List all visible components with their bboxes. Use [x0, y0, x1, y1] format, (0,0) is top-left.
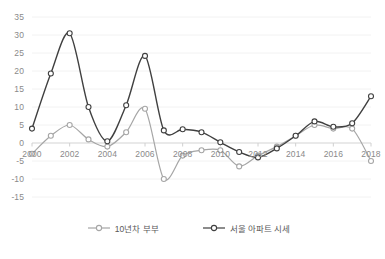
- data-point-marker: [293, 133, 298, 138]
- data-point-marker: [199, 130, 204, 135]
- data-point-marker: [143, 106, 148, 111]
- x-axis-tick-label: 2010: [205, 149, 235, 159]
- data-point-marker: [369, 159, 374, 164]
- data-point-marker: [274, 146, 279, 151]
- data-point-marker: [67, 31, 72, 36]
- data-point-marker: [161, 177, 166, 182]
- y-axis-tick-label: 20: [2, 66, 24, 76]
- y-axis-tick-label: 5: [2, 120, 24, 130]
- legend-item[interactable]: 서울 아파트 시세: [203, 222, 291, 234]
- legend-item[interactable]: 10년차 부부: [88, 222, 159, 234]
- x-axis-tick-label: 2002: [55, 149, 85, 159]
- data-point-marker: [369, 94, 374, 99]
- series-line: [32, 33, 371, 158]
- legend-marker-icon: [203, 223, 225, 233]
- x-axis-tick-label: 2006: [130, 149, 160, 159]
- data-point-marker: [237, 150, 242, 155]
- y-axis-tick-label: -15: [2, 192, 24, 202]
- data-point-marker: [237, 164, 242, 169]
- data-point-marker: [331, 124, 336, 129]
- legend-label: 서울 아파트 시세: [230, 222, 291, 234]
- data-point-marker: [67, 123, 72, 128]
- data-point-marker: [180, 127, 185, 132]
- x-axis-tick-label: 2012: [243, 149, 273, 159]
- data-point-marker: [86, 137, 91, 142]
- data-point-marker: [218, 140, 223, 145]
- series-line: [32, 108, 371, 181]
- legend-label: 10년차 부부: [115, 222, 159, 234]
- y-axis-tick-label: 30: [2, 30, 24, 40]
- gridlines: [32, 17, 371, 197]
- data-point-marker: [48, 71, 53, 76]
- data-point-marker: [105, 139, 110, 144]
- x-axis-tick-label: 2014: [281, 149, 311, 159]
- data-point-marker: [30, 126, 35, 131]
- x-axis-tick-label: 2008: [168, 149, 198, 159]
- x-axis-tick-label: 2000: [17, 149, 47, 159]
- x-axis-tick-label: 2016: [318, 149, 348, 159]
- data-point-marker: [124, 103, 129, 108]
- y-axis-tick-label: 0: [2, 138, 24, 148]
- data-point-marker: [48, 133, 53, 138]
- x-axis-tick-label: 2004: [92, 149, 122, 159]
- y-axis-tick-label: 25: [2, 48, 24, 58]
- data-point-marker: [161, 128, 166, 133]
- y-axis-tick-label: -10: [2, 174, 24, 184]
- x-axis-tick-label: 2018: [356, 149, 385, 159]
- data-point-marker: [86, 105, 91, 110]
- y-axis-tick-label: 10: [2, 102, 24, 112]
- data-point-marker: [124, 130, 129, 135]
- legend-marker-icon: [88, 223, 110, 233]
- chart-legend: 10년차 부부서울 아파트 시세: [0, 222, 378, 234]
- data-point-marker: [143, 53, 148, 58]
- y-axis-tick-label: 15: [2, 84, 24, 94]
- data-point-marker: [350, 126, 355, 131]
- data-point-marker: [312, 119, 317, 124]
- data-point-marker: [350, 121, 355, 126]
- y-axis-tick-label: 35: [2, 12, 24, 22]
- data-point-marker: [199, 148, 204, 153]
- x-tick-marks: [32, 143, 371, 147]
